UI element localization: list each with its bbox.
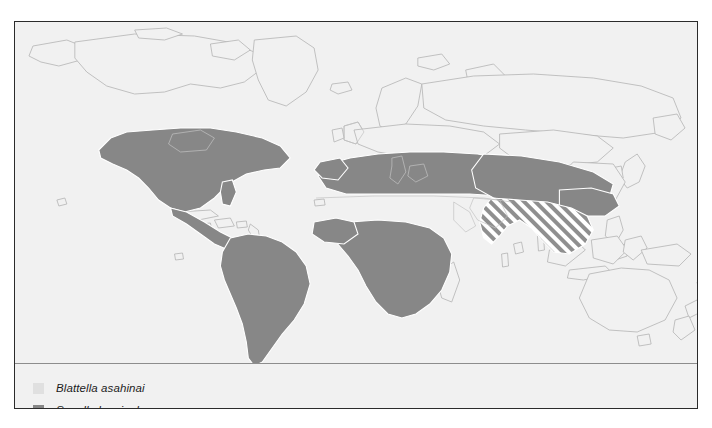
distribution-map-figure: Blattella asahinai Supella longipalpa	[14, 21, 698, 409]
legend-item-supella-longipalpa: Supella longipalpa	[33, 399, 697, 409]
legend-swatch-supella-longipalpa	[33, 405, 44, 410]
screenshot-root: Blattella asahinai Supella longipalpa	[0, 0, 712, 428]
outline-canaries	[314, 199, 325, 206]
legend: Blattella asahinai Supella longipalpa	[15, 364, 697, 408]
outline-sri-lanka	[514, 242, 524, 254]
legend-item-blattella-asahinai: Blattella asahinai	[33, 377, 697, 399]
outline-galapagos	[175, 253, 184, 260]
outline-hispaniola	[214, 218, 234, 228]
legend-swatch-blattella-asahinai	[33, 383, 44, 394]
outline-maldives	[502, 253, 509, 267]
outline-puerto-rico	[236, 221, 247, 228]
world-map-panel	[15, 22, 697, 363]
outline-tasmania	[637, 334, 651, 346]
world-map-svg	[15, 22, 697, 363]
legend-label-supella-longipalpa: Supella longipalpa	[56, 404, 152, 409]
legend-label-blattella-asahinai: Blattella asahinai	[56, 382, 145, 394]
